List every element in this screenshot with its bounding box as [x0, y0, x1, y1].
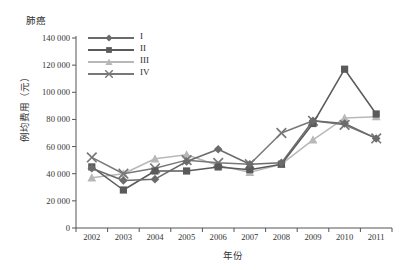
legend-item-II[interactable]: II: [88, 44, 166, 56]
data-point-marker: [309, 135, 318, 143]
y-axis-tick-label: 0: [24, 223, 70, 233]
y-axis-tick: 100 000: [20, 87, 70, 97]
y-axis-tick-label: 40 000: [24, 169, 70, 179]
data-point-marker: [215, 163, 222, 170]
data-point-marker: [182, 157, 191, 166]
y-axis-tick: 60 000: [20, 142, 70, 152]
legend-marker-square-icon: [105, 46, 113, 54]
data-point-marker: [106, 35, 113, 42]
y-axis-tick-label: 20 000: [24, 196, 70, 206]
y-axis-tick-label: 100 000: [24, 87, 70, 97]
y-axis-tick: 120 000: [20, 60, 70, 70]
legend-marker-triangle-icon: [105, 58, 113, 66]
legend-marker-cross-icon: [105, 70, 113, 78]
data-point-marker: [151, 167, 158, 174]
y-axis-tick: 140 000: [20, 33, 70, 43]
legend-item-III[interactable]: III: [88, 56, 166, 68]
y-axis-tick: 20 000: [20, 196, 70, 206]
chart-title: 肺癌: [26, 13, 47, 27]
series-I: [88, 116, 381, 184]
legend-label-I: I: [140, 31, 143, 41]
x-axis-title: 年份: [78, 248, 388, 262]
y-axis-tick: 80 000: [20, 114, 70, 124]
y-axis-tick: 40 000: [20, 169, 70, 179]
data-point-marker: [105, 58, 112, 64]
legend-marker-diamond-icon: [105, 34, 113, 42]
legend-label-II: II: [140, 43, 146, 53]
legend-label-IV: IV: [140, 67, 150, 77]
data-point-marker: [214, 145, 223, 154]
legend-label-III: III: [140, 55, 149, 65]
legend: IIIIIIIV: [88, 32, 166, 80]
x-axis-tick-label: 2011: [356, 232, 396, 242]
data-point-marker: [151, 175, 160, 184]
data-point-marker: [183, 167, 190, 174]
y-axis-tick-label: 120 000: [24, 60, 70, 70]
data-point-marker: [106, 47, 112, 53]
data-point-marker: [373, 110, 380, 117]
legend-item-IV[interactable]: IV: [88, 68, 166, 80]
y-axis-tick: 0: [20, 223, 70, 233]
y-axis-tick-label: 140 000: [24, 33, 70, 43]
data-point-marker: [341, 66, 348, 73]
series-line-IV: [92, 121, 376, 174]
y-axis-tick-label: 60 000: [24, 142, 70, 152]
data-point-marker: [120, 186, 127, 193]
lung-cancer-cost-line-chart: 肺癌 例均费用（元） 年份 140 000120 000100 00080 00…: [0, 0, 403, 270]
series-II: [88, 66, 380, 194]
legend-item-I[interactable]: I: [88, 32, 166, 44]
y-axis-tick-label: 80 000: [24, 114, 70, 124]
